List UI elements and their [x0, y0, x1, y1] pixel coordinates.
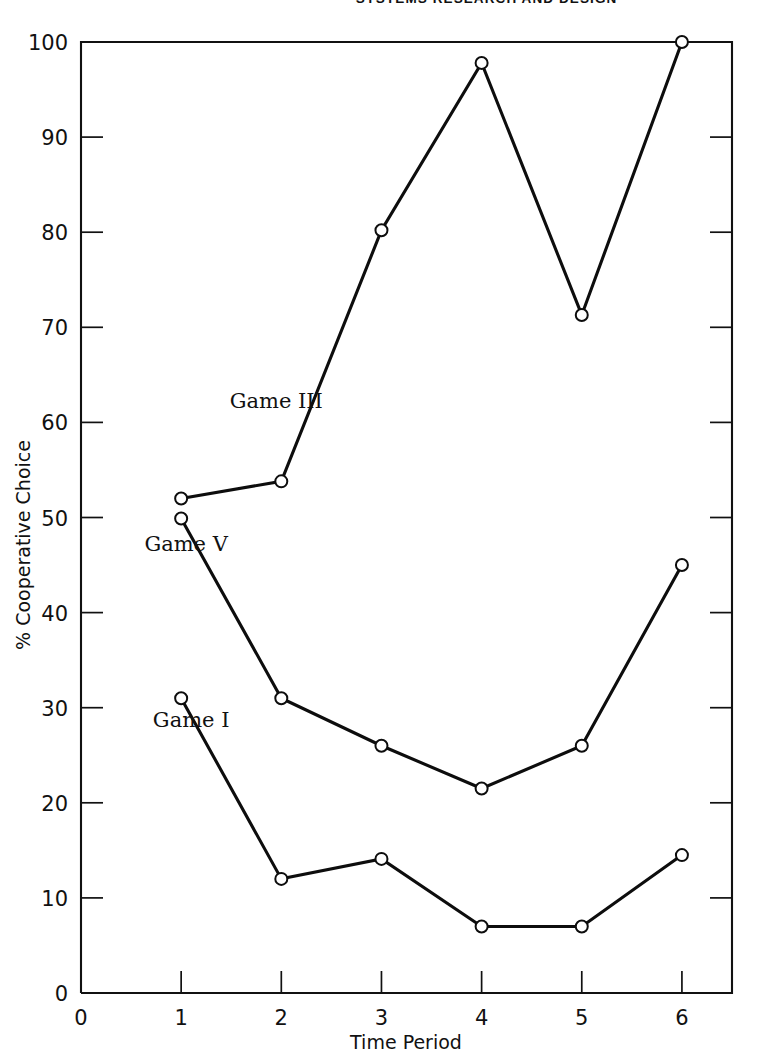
y-tick-label-90: 90 — [41, 126, 68, 150]
y-tick-label-40: 40 — [41, 602, 68, 626]
data-point — [275, 475, 287, 487]
series-label-game-v: Game V — [144, 532, 228, 556]
series-line-0 — [181, 42, 682, 498]
y-tick-label-60: 60 — [41, 411, 68, 435]
data-point — [375, 740, 387, 752]
data-point — [676, 849, 688, 861]
data-point — [175, 692, 187, 704]
data-point — [676, 36, 688, 48]
x-tick-label-2: 2 — [275, 1006, 288, 1030]
x-tick-label-1: 1 — [174, 1006, 187, 1030]
y-tick-label-10: 10 — [41, 887, 68, 911]
chart-canvas: 0102030405060708090100 0123456 Game IIIG… — [0, 0, 763, 1062]
series-game-v — [175, 512, 688, 794]
y-tick-label-30: 30 — [41, 697, 68, 721]
series-game-iii — [175, 36, 688, 504]
data-point — [476, 920, 488, 932]
data-point — [576, 740, 588, 752]
y-tick-label-80: 80 — [41, 221, 68, 245]
series-line-1 — [181, 518, 682, 788]
x-tick-label-4: 4 — [475, 1006, 488, 1030]
x-axis-ticks — [181, 971, 682, 993]
data-point — [375, 224, 387, 236]
y-tick-label-50: 50 — [41, 507, 68, 531]
data-point — [175, 492, 187, 504]
series-line-2 — [181, 698, 682, 926]
data-point — [375, 853, 387, 865]
data-point — [476, 783, 488, 795]
data-point — [576, 920, 588, 932]
series-label-game-i: Game I — [153, 708, 230, 732]
x-axis-tick-labels: 0123456 — [74, 1006, 688, 1030]
data-point — [275, 692, 287, 704]
y-axis-title: % Cooperative Choice — [12, 440, 34, 650]
data-series-group — [175, 36, 688, 932]
x-axis-title: Time Period — [349, 1031, 462, 1053]
x-tick-label-3: 3 — [375, 1006, 388, 1030]
x-tick-label-5: 5 — [575, 1006, 588, 1030]
series-game-i — [175, 692, 688, 932]
y-tick-label-20: 20 — [41, 792, 68, 816]
x-tick-label-0: 0 — [74, 1006, 87, 1030]
y-tick-label-0: 0 — [55, 982, 68, 1006]
series-label-game-iii: Game III — [230, 389, 323, 413]
data-point — [175, 512, 187, 524]
data-point — [275, 873, 287, 885]
line-chart-figure: 0102030405060708090100 0123456 Game IIIG… — [0, 0, 763, 1062]
data-point — [476, 57, 488, 69]
y-tick-label-70: 70 — [41, 316, 68, 340]
y-tick-label-100: 100 — [28, 31, 68, 55]
x-tick-label-6: 6 — [675, 1006, 688, 1030]
data-point — [676, 559, 688, 571]
data-point — [576, 309, 588, 321]
